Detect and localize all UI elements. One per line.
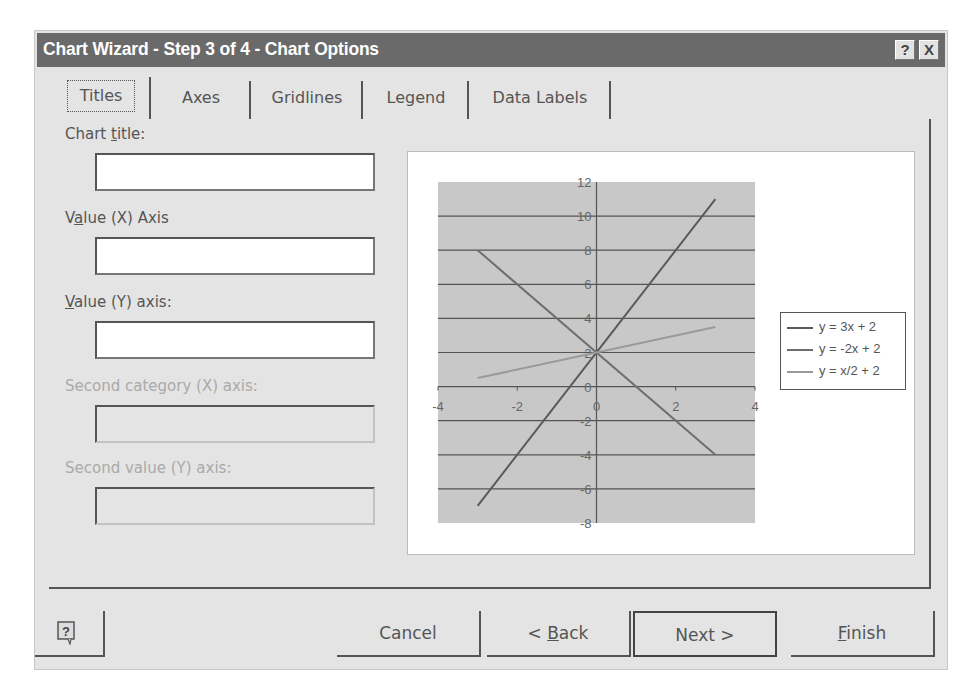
- svg-text:6: 6: [584, 277, 591, 292]
- svg-text:?: ?: [62, 624, 70, 639]
- chart-wizard-dialog: Chart Wizard - Step 3 of 4 - Chart Optio…: [34, 30, 948, 670]
- second-category-x-axis-label: Second category (X) axis:: [65, 377, 258, 395]
- legend-entry-3: y = x/2 + 2: [787, 363, 880, 385]
- svg-text:4: 4: [751, 399, 758, 414]
- svg-text:0: 0: [584, 380, 591, 395]
- legend-line-icon: [787, 349, 813, 351]
- legend-line-icon: [787, 327, 813, 329]
- second-value-y-axis-label: Second value (Y) axis:: [65, 459, 231, 477]
- next-button[interactable]: Next >: [633, 611, 777, 657]
- svg-text:12: 12: [577, 175, 591, 190]
- second-category-x-axis-input: [95, 405, 375, 443]
- back-button[interactable]: < Back: [487, 611, 631, 657]
- tab-data-labels[interactable]: Data Labels: [471, 81, 611, 119]
- title-bar[interactable]: Chart Wizard - Step 3 of 4 - Chart Optio…: [37, 33, 945, 67]
- tab-titles[interactable]: Titles: [53, 77, 151, 119]
- finish-button[interactable]: Finish: [791, 611, 935, 657]
- help-button[interactable]: ?: [35, 611, 105, 657]
- svg-text:-6: -6: [580, 482, 592, 497]
- svg-text:8: 8: [584, 243, 591, 258]
- value-y-axis-label: Value (Y) axis:: [65, 293, 172, 311]
- value-x-axis-label: Value (X) Axis: [65, 209, 169, 227]
- chart-preview: -8-6-4-2024681012-4-2024 y = 3x + 2 y = …: [407, 151, 915, 555]
- svg-text:4: 4: [584, 311, 591, 326]
- svg-text:-4: -4: [432, 399, 444, 414]
- value-x-axis-input[interactable]: [95, 237, 375, 275]
- chart-title-label: Chart title:: [65, 125, 145, 143]
- legend-entry-1: y = 3x + 2: [787, 319, 876, 341]
- tab-gridlines[interactable]: Gridlines: [253, 81, 363, 119]
- tab-strip: Titles Axes Gridlines Legend Data Labels: [53, 77, 653, 121]
- tab-legend[interactable]: Legend: [365, 81, 469, 119]
- legend-entry-2: y = -2x + 2: [787, 341, 880, 363]
- svg-text:10: 10: [577, 209, 591, 224]
- second-value-y-axis-input: [95, 487, 375, 525]
- help-question-button[interactable]: ?: [895, 40, 915, 60]
- chart-legend: y = 3x + 2 y = -2x + 2 y = x/2 + 2: [780, 312, 906, 390]
- svg-text:2: 2: [672, 399, 679, 414]
- svg-text:-4: -4: [580, 448, 592, 463]
- svg-text:0: 0: [593, 399, 600, 414]
- cancel-button[interactable]: Cancel: [337, 611, 481, 657]
- svg-text:-2: -2: [511, 399, 523, 414]
- titles-tab-panel: Chart title: Value (X) Axis Value (Y) ax…: [49, 119, 931, 589]
- svg-text:-8: -8: [580, 516, 592, 531]
- help-balloon-icon: ?: [57, 621, 77, 645]
- legend-line-icon: [787, 371, 813, 373]
- value-y-axis-input[interactable]: [95, 321, 375, 359]
- chart-title-input[interactable]: [95, 153, 375, 191]
- close-button[interactable]: X: [919, 40, 939, 60]
- window-title: Chart Wizard - Step 3 of 4 - Chart Optio…: [43, 38, 379, 60]
- tab-axes[interactable]: Axes: [153, 81, 251, 119]
- svg-text:-2: -2: [580, 414, 592, 429]
